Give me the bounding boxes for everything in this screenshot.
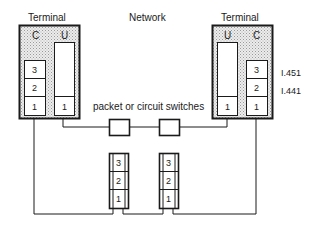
switches-label: packet or circuit switches [93, 102, 204, 112]
right-c-layer-1: 1 [254, 102, 259, 112]
connection-lines [34, 115, 256, 214]
right-c-column-label: C [253, 31, 260, 41]
switch-1 [110, 120, 130, 136]
diagram-canvas [0, 0, 318, 227]
right-c-layer-2: 2 [254, 83, 259, 93]
protocol-label-i441: I.441 [281, 86, 301, 96]
left-u-layer-1: 1 [62, 102, 67, 112]
left-u-column-label: U [61, 31, 68, 41]
left-terminal [20, 26, 80, 119]
stack-2-layer-2: 2 [166, 176, 171, 186]
left-terminal-title: Terminal [28, 13, 66, 23]
right-terminal-title: Terminal [221, 13, 259, 23]
network-title: Network [129, 13, 166, 23]
stack-1-layer-1: 1 [116, 194, 121, 204]
right-u-column-label: U [224, 31, 231, 41]
right-c-layer-3: 3 [254, 65, 259, 75]
protocol-label-i451: I.451 [281, 68, 301, 78]
stack-1-layer-3: 3 [116, 158, 121, 168]
left-c-layer-1: 1 [32, 102, 37, 112]
control-plane-link [34, 115, 113, 214]
right-terminal [213, 26, 273, 119]
stack-1-layer-2: 2 [116, 176, 121, 186]
switch-2 [160, 120, 180, 136]
stack-2-layer-1: 1 [166, 194, 171, 204]
left-c-column-label: C [32, 31, 39, 41]
left-c-layer-2: 2 [32, 83, 37, 93]
left-c-layer-3: 3 [32, 65, 37, 75]
stack-2-layer-3: 3 [166, 158, 171, 168]
right-u-layer-1: 1 [225, 102, 230, 112]
